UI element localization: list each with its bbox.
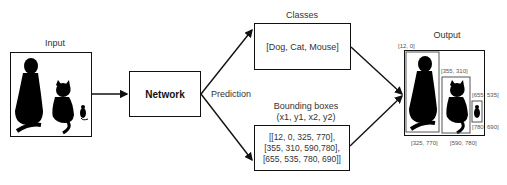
animals-silhouette-icon (11, 53, 90, 135)
input-image (10, 52, 92, 137)
cat-topleft-coord: [355, 310] (441, 68, 468, 74)
network-box: Network (129, 71, 201, 117)
bbox-line: [[12, 0, 325, 770], (269, 132, 335, 143)
bbox-title: Bounding boxes (x1, y1, x2, y2) (262, 101, 350, 123)
dog-topleft-coord: [12, 0] (398, 43, 415, 49)
classes-box: [Dog, Cat, Mouse] (254, 23, 351, 70)
output-label: Output (432, 30, 462, 40)
classes-value: [Dog, Cat, Mouse] (266, 42, 339, 52)
cat-bottomright-coord: [590, 780] (450, 140, 477, 146)
bbox-title-line1: Bounding boxes (262, 101, 350, 112)
network-label: Network (145, 89, 184, 100)
classes-title: Classes (280, 10, 324, 20)
dog-bottomright-coord: [325, 770] (411, 140, 438, 146)
mouse-topleft-coord: [655, 535] (472, 92, 499, 98)
bbox-line: [655, 535, 780, 690]] (263, 154, 341, 165)
bbox-title-line2: (x1, y1, x2, y2) (262, 112, 350, 123)
prediction-label: Prediction (211, 89, 251, 99)
bbox-box: [[12, 0, 325, 770], [355, 310, 590,780],… (254, 125, 350, 171)
bbox-line: [355, 310, 590,780], (264, 143, 340, 154)
input-label: Input (38, 38, 72, 48)
mouse-bottomright-coord: [780, 690] (472, 124, 499, 130)
